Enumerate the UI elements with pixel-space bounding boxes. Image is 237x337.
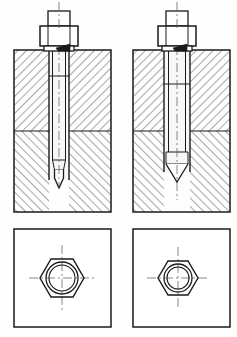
right-plan-view [133,229,230,327]
left-nut-hex-body [40,26,78,46]
right-nut-hex-body [158,26,196,46]
technical-drawing-svg [0,0,237,337]
right-section-view [133,2,230,212]
engineering-drawing-canvas [0,0,237,337]
right-nut-assembly [158,2,196,51]
left-nut-assembly [40,2,78,51]
left-section-view [14,2,111,212]
left-plan-view [14,229,111,327]
left-plan-frame [14,229,111,327]
